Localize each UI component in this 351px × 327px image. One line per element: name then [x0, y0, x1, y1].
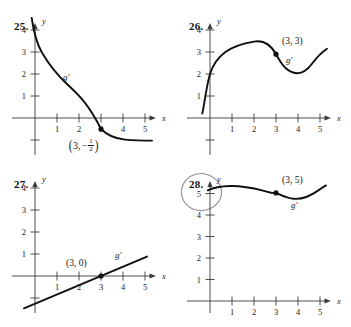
paren-open-25: ( [69, 138, 73, 153]
x-tick-label-1-27: 1 [55, 282, 59, 292]
x-axis-label-26: x [336, 113, 341, 123]
point-label-sign-25: − [82, 141, 88, 151]
x-tick-label-5-27: 5 [143, 282, 147, 292]
x-axis-label-25: x [161, 113, 166, 123]
chart-26: 1 2 3 4 5 1 2 3 4 x y (3, 3) g′ [175, 8, 351, 163]
x-axis-arrow-27 [150, 273, 157, 278]
y-axis-label-25: y [41, 16, 46, 26]
y-axis-arrow-28 [207, 181, 212, 187]
point-label-27: (3, 0) [66, 258, 87, 269]
point-label-fraction-25: 1 2 [88, 138, 94, 154]
paren-close-25: ) [95, 138, 99, 153]
point-marker-28 [273, 190, 278, 195]
panel-exercise-26: 26. 1 2 3 4 5 1 2 3 4 x y [175, 8, 351, 163]
chart-28: 1 2 3 4 5 1 2 3 4 5 x y (3, 5) g′ [175, 170, 351, 327]
curve-g-prime-25 [32, 18, 152, 141]
point-marker-25 [98, 126, 103, 131]
y-tick-label-1-26: 1 [197, 91, 201, 101]
point-label-25: ( 3, − 1 2 ) [68, 138, 99, 154]
x-tick-label-4-27: 4 [121, 282, 126, 292]
function-label-27: g′ [115, 250, 123, 260]
y-axis-arrow-26 [207, 23, 212, 29]
point-marker-27 [98, 273, 103, 278]
exercise-figure-page: 25. 1 2 3 4 5 [0, 0, 351, 327]
fraction-denominator-25: 2 [88, 146, 94, 153]
y-tick-label-4-25: 4 [22, 25, 27, 35]
y-tick-label-1-25: 1 [22, 91, 26, 101]
point-marker-26 [273, 52, 278, 57]
x-tick-label-2-26: 2 [252, 124, 256, 134]
y-tick-label-3-27: 3 [22, 205, 26, 215]
x-tick-label-1-28: 1 [230, 307, 234, 317]
x-tick-label-2-27: 2 [77, 282, 81, 292]
x-tick-label-3-27: 3 [99, 282, 103, 292]
x-tick-label-5-26: 5 [318, 124, 322, 134]
x-axis-label-27: x [161, 271, 166, 281]
panel-exercise-27: 27. 1 2 3 4 5 1 2 3 4 x y [0, 170, 176, 327]
y-tick-label-2-28: 2 [197, 253, 201, 263]
y-tick-label-2-27: 2 [22, 227, 26, 237]
chart-27: 1 2 3 4 5 1 2 3 4 x y (3, 0) g′ [0, 170, 176, 327]
y-tick-label-1-27: 1 [22, 249, 26, 259]
x-tick-label-5-25: 5 [143, 124, 147, 134]
x-tick-label-5-28: 5 [318, 307, 322, 317]
fraction-numerator-25: 1 [88, 138, 94, 145]
y-tick-label-4-26: 4 [197, 25, 202, 35]
x-axis-arrow-25 [150, 115, 157, 120]
point-label-x-25: 3, [73, 141, 81, 151]
x-tick-label-1-26: 1 [230, 124, 234, 134]
y-tick-label-3-26: 3 [197, 47, 201, 57]
y-axis-arrow-27 [32, 181, 37, 187]
y-tick-label-1-28: 1 [197, 275, 201, 285]
y-axis-label-26: y [216, 16, 221, 26]
function-label-26: g′ [286, 55, 294, 65]
panel-exercise-28: 28. 1 2 3 4 5 1 2 [175, 170, 351, 327]
x-tick-label-4-28: 4 [296, 307, 301, 317]
y-tick-label-2-25: 2 [22, 69, 26, 79]
y-tick-label-4-27: 4 [22, 183, 27, 193]
y-tick-label-4-28: 4 [197, 210, 202, 220]
x-axis-arrow-26 [325, 115, 332, 120]
y-axis-label-27: y [41, 174, 46, 184]
y-tick-label-3-25: 3 [22, 47, 26, 57]
point-label-28: (3, 5) [282, 175, 303, 186]
x-tick-label-3-26: 3 [274, 124, 278, 134]
curve-g-prime-28 [208, 185, 326, 198]
y-tick-label-2-26: 2 [197, 69, 201, 79]
x-tick-label-4-25: 4 [121, 124, 126, 134]
y-axis-label-28: y [216, 174, 221, 184]
x-axis-label-28: x [336, 296, 341, 306]
function-label-25: g′ [63, 72, 71, 82]
curve-g-prime-26 [202, 41, 327, 113]
x-axis-arrow-28 [325, 298, 332, 303]
function-label-28: g′ [291, 200, 299, 210]
point-label-26: (3, 3) [282, 36, 303, 47]
x-tick-label-1-25: 1 [55, 124, 59, 134]
panel-exercise-25: 25. 1 2 3 4 5 [0, 8, 176, 163]
x-tick-label-2-28: 2 [252, 307, 256, 317]
x-tick-label-4-26: 4 [296, 124, 301, 134]
y-tick-label-3-28: 3 [197, 232, 201, 242]
x-tick-label-3-28: 3 [274, 307, 278, 317]
x-tick-label-2-25: 2 [77, 124, 81, 134]
y-tick-label-5-28: 5 [197, 189, 201, 199]
